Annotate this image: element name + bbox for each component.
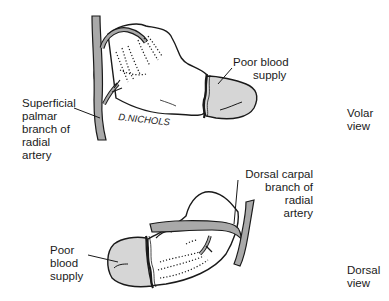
- label-volar-poor-blood-supply: Poor blood supply: [233, 56, 289, 82]
- volar-radial-artery: [92, 16, 106, 140]
- label-superficial-palmar-branch: Superficial palmar branch of radial arte…: [22, 97, 76, 162]
- label-line: view: [347, 120, 373, 133]
- label-dorsal-poor-blood-supply: Poor blood supply: [50, 244, 83, 283]
- label-line: Dorsal carpal: [233, 168, 313, 181]
- label-dorsal-carpal-branch: Dorsal carpal branch of radial artery: [233, 168, 313, 220]
- label-line: Poor blood: [233, 56, 289, 69]
- dorsal-scaphoid-outline: [147, 192, 239, 286]
- label-line: radial: [22, 136, 76, 149]
- label-line: supply: [50, 270, 83, 283]
- label-line: Dorsal: [347, 264, 380, 277]
- label-line: blood: [50, 257, 83, 270]
- label-dorsal-view: Dorsal view: [347, 264, 380, 290]
- volar-view-illustration: D.NICHOLS: [74, 16, 257, 140]
- volar-poor-supply-region: [204, 76, 257, 119]
- label-line: branch of: [22, 123, 76, 136]
- label-line: Poor: [50, 244, 83, 257]
- label-volar-view: Volar view: [347, 107, 373, 133]
- label-line: supply: [233, 69, 289, 82]
- label-line: branch of: [233, 181, 313, 194]
- dorsal-poor-supply-region: [108, 237, 152, 286]
- label-line: artery: [233, 207, 313, 220]
- label-line: radial: [233, 194, 313, 207]
- label-line: Volar: [347, 107, 373, 120]
- label-line: palmar: [22, 110, 76, 123]
- label-line: view: [347, 277, 380, 290]
- dorsal-view-illustration: [88, 180, 254, 288]
- label-line: artery: [22, 149, 76, 162]
- label-line: Superficial: [22, 97, 76, 110]
- volar-scaphoid-outline: [108, 24, 210, 115]
